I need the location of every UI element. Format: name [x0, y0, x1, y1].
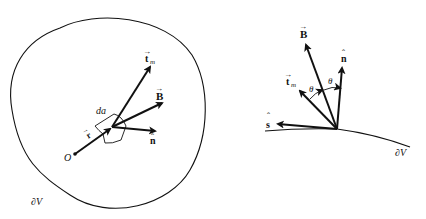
- label-n-right: ˆ n: [341, 48, 347, 64]
- normal-vector-n-right: [337, 68, 342, 129]
- label-origin: O: [64, 152, 71, 163]
- svg-text:n: n: [341, 53, 347, 64]
- label-theta-2: θ: [328, 76, 333, 86]
- label-boundary-right: ∂V: [395, 147, 408, 158]
- surface-boundary-curve: [265, 129, 410, 147]
- label-n: ˆ n: [150, 132, 156, 146]
- label-tm-right: → t m: [284, 70, 296, 89]
- svg-text:s: s: [266, 119, 270, 130]
- label-da: da: [96, 105, 106, 116]
- label-theta-1: θ: [309, 84, 314, 94]
- tangent-vector-s: [278, 124, 337, 129]
- volume-boundary-curve: [11, 18, 206, 208]
- traction-vector-tm-right: [300, 91, 337, 129]
- label-boundary-left: ∂V: [31, 196, 44, 207]
- origin-point: [73, 152, 77, 156]
- svg-text:B: B: [300, 28, 308, 40]
- svg-text:m: m: [291, 81, 296, 89]
- diagram-canvas: → t m → B ˆ n da → r O ∂V → B: [0, 0, 426, 219]
- left-diagram: → t m → B ˆ n da → r O ∂V: [11, 18, 206, 208]
- right-diagram: → B ˆ n → t m ˆ s θ θ ∂V: [265, 22, 410, 158]
- svg-text:m: m: [150, 58, 155, 66]
- svg-text:r: r: [84, 130, 92, 141]
- label-B: → B: [155, 84, 164, 102]
- label-r: → r: [80, 125, 94, 141]
- label-s-right: ˆ s: [266, 111, 270, 130]
- normal-vector-n: [112, 127, 155, 131]
- svg-text:n: n: [150, 135, 156, 146]
- label-B-right: → B: [299, 22, 308, 40]
- label-tm: → t m: [143, 47, 155, 66]
- theta-arc-B-n: [324, 87, 340, 90]
- svg-text:B: B: [156, 90, 164, 102]
